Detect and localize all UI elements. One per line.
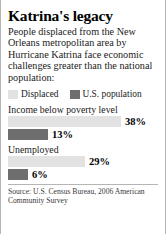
bar-unemployed-displaced bbox=[8, 156, 85, 167]
legend-swatch-displaced-icon bbox=[8, 90, 18, 99]
bar-poverty-displaced bbox=[8, 116, 121, 127]
bar-group-label-unemployed: Unemployed bbox=[8, 144, 158, 155]
source-divider bbox=[8, 184, 158, 185]
bar-value-poverty-us-population: 13% bbox=[52, 129, 73, 140]
chart-legend: Displaced U.S. population bbox=[8, 89, 158, 99]
bar-row-unemployed-us-population: 6% bbox=[8, 169, 158, 180]
legend-swatch-us-population-icon bbox=[70, 90, 80, 99]
legend-item-us-population: U.S. population bbox=[70, 89, 142, 99]
bar-row-poverty-displaced: 38% bbox=[8, 116, 158, 127]
description-text: People displaced from the New Orleans me… bbox=[8, 26, 158, 83]
legend-label-displaced: Displaced bbox=[21, 89, 59, 99]
bar-group-poverty: Income below poverty level 38% 13% bbox=[8, 104, 158, 140]
source-credit: Source: U.S. Census Bureau, 2006 America… bbox=[8, 188, 158, 205]
bar-value-poverty-displaced: 38% bbox=[125, 116, 146, 127]
bar-value-unemployed-us-population: 6% bbox=[32, 169, 48, 180]
infographic-card: Katrina's legacy People displaced from t… bbox=[0, 0, 166, 234]
bar-value-unemployed-displaced: 29% bbox=[89, 156, 110, 167]
bar-unemployed-us-population bbox=[8, 169, 28, 180]
bar-row-poverty-us-population: 13% bbox=[8, 129, 158, 140]
page-title: Katrina's legacy bbox=[8, 7, 158, 24]
legend-item-displaced: Displaced bbox=[8, 89, 59, 99]
bar-row-unemployed-displaced: 29% bbox=[8, 156, 158, 167]
bar-group-label-poverty: Income below poverty level bbox=[8, 104, 158, 115]
legend-label-us-population: U.S. population bbox=[83, 89, 142, 99]
bar-group-unemployed: Unemployed 29% 6% bbox=[8, 144, 158, 180]
bar-poverty-us-population bbox=[8, 129, 48, 140]
